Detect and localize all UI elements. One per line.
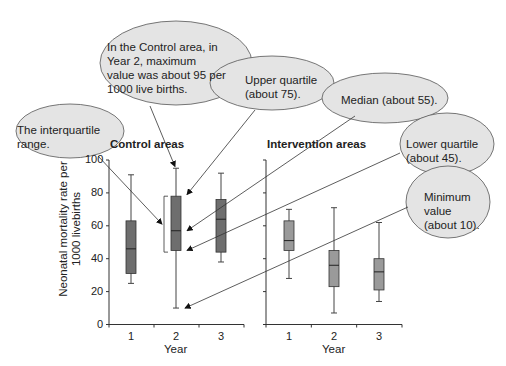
callout-minimum: Minimumvalue(about 10). [424, 190, 480, 232]
x-axis-label-intervention: Year [322, 343, 345, 355]
x-tick-label: 2 [173, 330, 179, 342]
callout-upper-quartile: Upper quartile(about 75). [245, 73, 317, 101]
x-tick-label: 1 [286, 330, 292, 342]
panel-title-intervention: Intervention areas [267, 138, 366, 150]
box [329, 250, 339, 286]
x-axis-label-control: Year [164, 343, 187, 355]
callout-maximum: In the Control area, inYear 2, maximumva… [107, 40, 226, 96]
box [171, 196, 181, 250]
x-tick-label: 2 [331, 330, 337, 342]
y-tick-label: 40 [91, 252, 103, 264]
box [126, 221, 136, 274]
callout-median: Median (about 55). [341, 93, 438, 107]
x-tick-label: 1 [128, 330, 134, 342]
panel-title-control: Control areas [110, 138, 184, 150]
y-tick-label: 20 [91, 285, 103, 297]
y-tick-label: 0 [97, 318, 103, 330]
y-tick-label: 100 [85, 153, 103, 165]
y-tick-label: 60 [91, 219, 103, 231]
box [374, 259, 384, 290]
iqr-bracket [164, 196, 168, 252]
arrow-iqr [98, 156, 162, 224]
box [284, 221, 294, 251]
arrow-maximum [150, 106, 175, 167]
x-tick-label: 3 [218, 330, 224, 342]
boxplot-figure: The interquartilerange. In the Control a… [0, 0, 506, 366]
arrow-median [187, 116, 355, 231]
x-tick-label: 3 [376, 330, 382, 342]
y-axis-label: Neonatal mortality rate per1000 livebirt… [57, 144, 83, 314]
callout-lower-quartile: Lower quartile(about 45). [406, 137, 478, 165]
y-tick-label: 80 [91, 186, 103, 198]
